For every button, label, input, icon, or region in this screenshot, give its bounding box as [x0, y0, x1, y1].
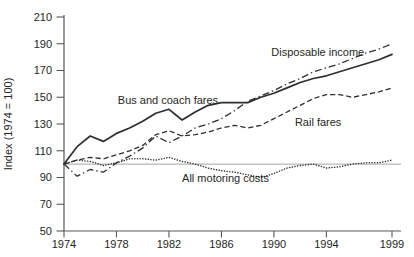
y-tick-label: 110: [34, 145, 52, 157]
x-tick-label: 1986: [209, 238, 233, 250]
x-tick-label: 1978: [104, 238, 128, 250]
y-tick-label: 190: [34, 38, 52, 50]
all-motoring-costs-label: All motoring costs: [182, 172, 269, 184]
x-tick-label: 1990: [262, 238, 286, 250]
y-tick-label: 130: [34, 118, 52, 130]
bus-and-coach-fares-label: Bus and coach fares: [118, 94, 219, 106]
rail-fares-line: [64, 88, 392, 164]
y-tick-label: 210: [34, 11, 52, 23]
y-tick-label: 90: [40, 171, 52, 183]
x-tick-label: 1974: [52, 238, 76, 250]
transport-cost-index-chart: 5070901101301501701902101974197819821986…: [0, 0, 414, 257]
plot-area: 5070901101301501701902101974197819821986…: [34, 11, 405, 250]
y-tick-label: 170: [34, 64, 52, 76]
y-tick-label: 50: [40, 225, 52, 237]
y-tick-label: 70: [40, 198, 52, 210]
x-tick-label: 1982: [157, 238, 181, 250]
x-tick-label: 1994: [314, 238, 338, 250]
y-tick-label: 150: [34, 91, 52, 103]
y-axis-title: Index (1974 = 100): [2, 78, 14, 171]
rail-fares-label: Rail fares: [295, 116, 342, 128]
disposable-income-label: Disposable income: [271, 46, 364, 58]
chart-canvas: 5070901101301501701902101974197819821986…: [0, 0, 414, 257]
bus-and-coach-fares-line: [64, 54, 392, 164]
x-tick-label: 1999: [380, 238, 404, 250]
